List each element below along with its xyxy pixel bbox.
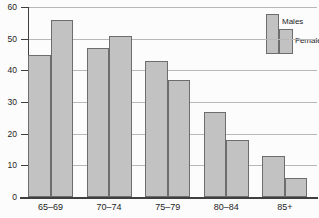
- x-category-label: 85+: [255, 202, 314, 213]
- bar-females-75-79: [168, 80, 191, 197]
- legend-label-females: Females: [295, 36, 319, 45]
- y-gridline: [28, 7, 317, 8]
- bar-males-80-84: [204, 112, 227, 198]
- x-axis-line: [20, 197, 318, 199]
- bar-males-85: [262, 156, 285, 197]
- y-tick-label: 0: [0, 192, 17, 202]
- y-tick: [21, 39, 28, 40]
- y-tick: [21, 102, 28, 103]
- x-category-label: 70–74: [80, 202, 139, 213]
- y-tick-label: 60: [0, 2, 17, 12]
- y-tick-label: 50: [0, 34, 17, 44]
- bar-males-70-74: [87, 48, 110, 197]
- bar-females-80-84: [226, 140, 249, 197]
- legend-swatch-females-icon: [279, 29, 293, 54]
- bar-females-85: [285, 178, 308, 197]
- y-tick-label: 40: [0, 65, 17, 75]
- legend-label-males: Males: [282, 17, 303, 26]
- bar-males-75-79: [145, 61, 168, 197]
- x-category-label: 80–84: [197, 202, 256, 213]
- bar-chart: Males Females 010203040506065–6970–7475–…: [0, 0, 319, 218]
- y-tick-label: 20: [0, 129, 17, 139]
- y-tick-label: 30: [0, 97, 17, 107]
- y-tick-label: 10: [0, 160, 17, 170]
- bar-females-65-69: [51, 20, 74, 197]
- y-tick: [21, 7, 28, 8]
- y-tick: [21, 165, 28, 166]
- x-category-label: 65–69: [21, 202, 80, 213]
- x-category-label: 75–79: [138, 202, 197, 213]
- bar-females-70-74: [109, 36, 132, 198]
- legend-swatch-males-icon: [266, 14, 279, 54]
- bar-males-65-69: [28, 55, 51, 198]
- y-tick: [21, 134, 28, 135]
- legend: Males Females: [0, 0, 319, 60]
- y-tick: [21, 70, 28, 71]
